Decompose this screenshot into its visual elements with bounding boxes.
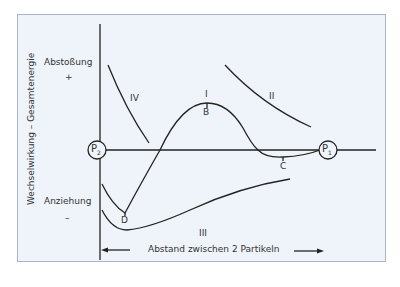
arrow-left-icon xyxy=(101,248,108,253)
curve-iv xyxy=(108,65,149,143)
curve-iv-label: IV xyxy=(130,93,139,103)
repulsion-sign: + xyxy=(65,72,73,82)
attraction-label: Anziehung xyxy=(44,196,91,206)
repulsion-label: Abstoßung xyxy=(44,57,92,67)
curve-iii-label: III xyxy=(199,228,207,238)
point-d-label: D xyxy=(121,215,128,225)
attraction-sign: – xyxy=(65,213,70,223)
curve-ii-label: II xyxy=(269,91,274,101)
curve-i-label: I xyxy=(205,89,208,99)
curve-ii xyxy=(225,65,311,127)
point-b-label: B xyxy=(203,107,209,117)
point-c-label: C xyxy=(280,161,286,171)
y-axis-label: Wechselwirkung – Gesamtenergie xyxy=(26,53,36,205)
x-axis-label: Abstand zwischen 2 Partikeln xyxy=(148,244,279,254)
particle-p2-label: P2 xyxy=(91,143,101,156)
particle-p1-label: P1 xyxy=(322,143,332,156)
arrow-right-icon xyxy=(317,249,324,254)
